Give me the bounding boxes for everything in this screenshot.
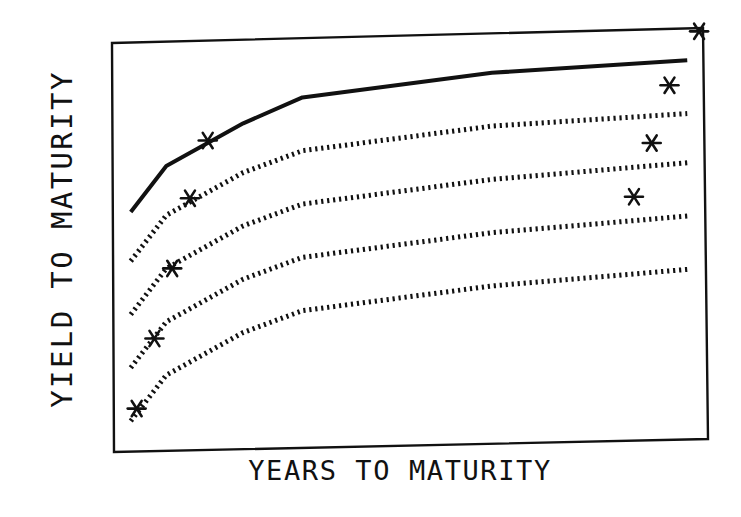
asterisk-marker-icon	[145, 331, 163, 346]
x-axis-label: YEARS TO MATURITY	[248, 455, 552, 486]
curve-5-line	[131, 269, 687, 421]
asterisk-marker-icon	[625, 189, 643, 204]
asterisk-marker-icon	[163, 261, 181, 276]
curve-1-line	[131, 60, 687, 212]
yield-curve-chart	[0, 0, 741, 517]
curve-4-line	[131, 216, 687, 368]
asterisk-marker-icon	[690, 24, 708, 39]
curve-3-line	[131, 163, 687, 315]
asterisk-marker-icon	[128, 401, 146, 416]
y-axis-label: YIELD TO MATURITY	[45, 70, 79, 408]
curve-2-line	[131, 114, 687, 262]
plot-frame	[112, 28, 708, 452]
asterisk-marker-icon	[643, 135, 661, 150]
asterisk-marker-icon	[660, 78, 678, 93]
curves-group	[131, 60, 687, 421]
